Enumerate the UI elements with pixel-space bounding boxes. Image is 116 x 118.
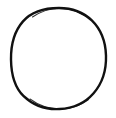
canvas-background xyxy=(0,0,116,118)
image-canvas: Hand-drawn black circle outline on a whi… xyxy=(0,0,116,118)
circle-figure xyxy=(0,0,116,118)
